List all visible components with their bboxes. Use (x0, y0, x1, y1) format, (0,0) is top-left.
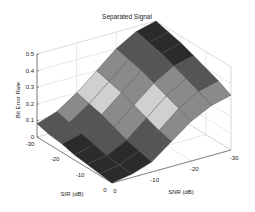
y-axis-label: SIR (dB) (60, 191, 83, 197)
chart-figure: 00.10.20.30.40.5-30-20-100-30-20-100 Sep… (0, 0, 255, 212)
z-axis-label: Bit Error Rate (15, 81, 21, 118)
sir-tick-label: -10 (76, 172, 85, 178)
sir-tick-label: -20 (51, 156, 60, 162)
z-tick-label: 0.4 (26, 68, 35, 74)
snr-tick-label: -30 (230, 155, 239, 161)
z-tick-label: 0.1 (26, 117, 35, 123)
chart-title: Separated Signal (102, 13, 152, 21)
sir-tick-label: -30 (26, 141, 35, 147)
z-tick-label: 0.2 (26, 101, 35, 107)
z-tick-label: 0.3 (26, 84, 35, 90)
snr-tick-label: -20 (190, 166, 199, 172)
sir-tick-label: 0 (103, 187, 107, 193)
z-tick-label: 0.5 (26, 51, 35, 57)
surface-patches (37, 21, 231, 183)
surface-plot: 00.10.20.30.40.5-30-20-100-30-20-100 Sep… (0, 0, 255, 212)
snr-tick-label: 0 (113, 188, 117, 194)
z-tick-label: 0 (31, 134, 35, 140)
snr-tick-label: -10 (150, 177, 159, 183)
x-axis-label: SNR (dB) (168, 189, 194, 195)
